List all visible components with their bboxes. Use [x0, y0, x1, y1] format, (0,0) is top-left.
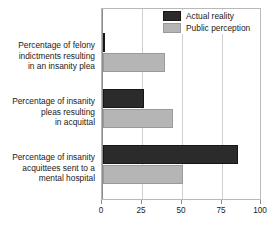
category-label-2-line-2: mental hospital [3, 173, 95, 184]
x-tick-mark-100 [260, 200, 261, 204]
category-label-1: Percentage of insanity pleas resulting i… [3, 96, 95, 128]
category-label-2-line-1: acquittees sent to a [3, 163, 95, 174]
bar-public-perception-0 [103, 53, 165, 72]
category-label-0: Percentage of felony indictments resulti… [3, 40, 95, 72]
bar-public-perception-1 [103, 109, 173, 128]
category-label-1-line-0: Percentage of insanity [3, 96, 95, 107]
plot-area [101, 8, 261, 200]
x-tick-mark-0 [101, 200, 102, 204]
legend-swatch-actual-reality [163, 11, 181, 21]
gridline-75 [222, 9, 223, 199]
bar-chart: Percentage of felony indictments resulti… [0, 0, 278, 225]
bar-public-perception-2 [103, 165, 183, 184]
x-tick-mark-25 [141, 200, 142, 204]
x-tick-label-50: 50 [176, 206, 185, 215]
x-tick-mark-50 [181, 200, 182, 204]
category-label-2-line-0: Percentage of insanity [3, 152, 95, 163]
legend-label-actual-reality: Actual reality [186, 11, 234, 21]
legend: Actual reality Public perception [161, 10, 252, 34]
legend-item-public-perception: Public perception [163, 23, 250, 33]
category-label-1-line-1: pleas resulting [3, 107, 95, 118]
x-tick-label-25: 25 [136, 206, 145, 215]
bar-actual-reality-0 [103, 33, 105, 52]
bar-actual-reality-2 [103, 145, 238, 164]
legend-item-actual-reality: Actual reality [163, 11, 250, 21]
legend-label-public-perception: Public perception [186, 23, 250, 33]
x-tick-mark-75 [221, 200, 222, 204]
x-tick-label-100: 100 [253, 206, 267, 215]
category-label-0-line-2: in an insanity plea [3, 61, 95, 72]
category-label-0-line-0: Percentage of felony [3, 40, 95, 51]
x-tick-label-0: 0 [99, 206, 104, 215]
x-tick-label-75: 75 [216, 206, 225, 215]
category-label-0-line-1: indictments resulting [3, 51, 95, 62]
legend-swatch-public-perception [163, 23, 181, 33]
bar-actual-reality-1 [103, 89, 144, 108]
category-label-1-line-2: in acquittal [3, 117, 95, 128]
category-label-2: Percentage of insanity acquittees sent t… [3, 152, 95, 184]
